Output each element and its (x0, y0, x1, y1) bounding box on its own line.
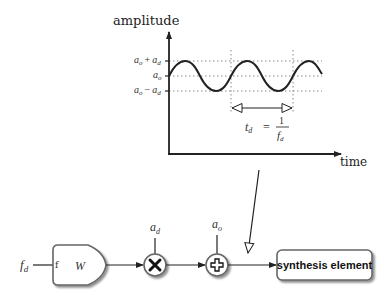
input-fd-label: fd (20, 257, 29, 274)
synthesis-diagram: amplitude ao+ad ao ao−ad (0, 0, 387, 303)
level-label-offset: ao (153, 69, 162, 82)
svg-text:ao+ad: ao+ad (134, 54, 161, 67)
signal-chain: fd f W ad ao (20, 217, 373, 285)
oscillator-name: W (75, 259, 86, 273)
period-formula: td = 1 fd (245, 115, 289, 143)
y-axis-label: amplitude (113, 13, 180, 28)
synthesis-element-label: synthesis element (277, 259, 373, 271)
svg-text:fd: fd (277, 129, 284, 143)
svg-text:1: 1 (279, 115, 284, 126)
waveform-graph: amplitude ao+ad ao ao−ad (113, 13, 367, 169)
svg-text:=: = (263, 120, 270, 134)
graph-to-chain-pointer (248, 170, 259, 253)
svg-text:td: td (245, 120, 253, 135)
x-axis-label: time (340, 155, 367, 169)
level-label-max: ao+ad (134, 54, 161, 67)
adder-node[interactable] (206, 254, 228, 276)
level-label-min: ao−ad (134, 84, 161, 97)
multiplier-node[interactable] (144, 254, 166, 276)
svg-text:ao: ao (153, 69, 162, 82)
add-input-label: ao (212, 217, 222, 233)
svg-text:ao−ad: ao−ad (134, 84, 161, 97)
mult-input-label: ad (150, 220, 161, 236)
